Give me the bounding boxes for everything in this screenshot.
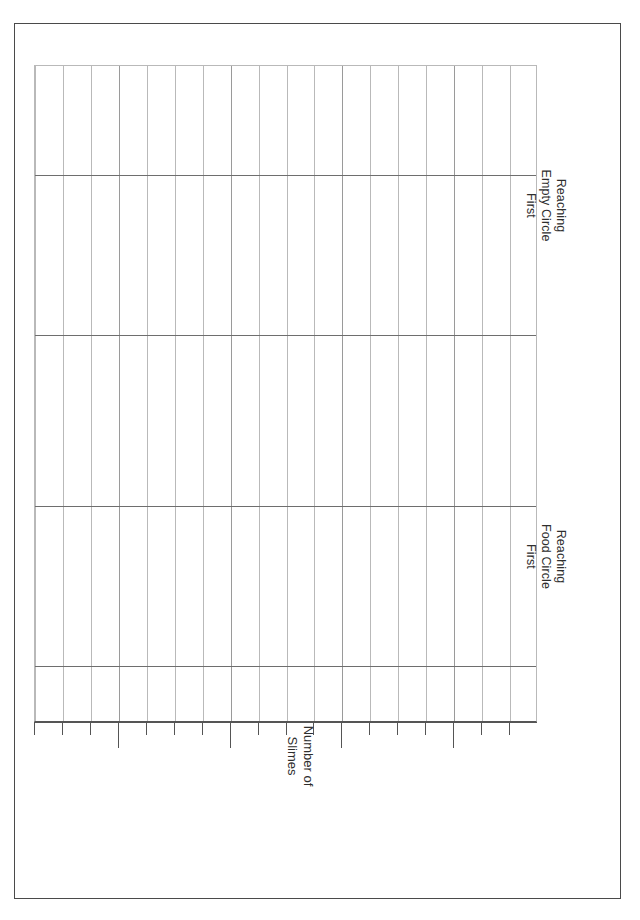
category-label-empty-circle: Reaching Empty Circle First: [523, 141, 568, 271]
axis-tick: [146, 722, 147, 735]
axis-tick: [34, 722, 35, 735]
gridline-v: [91, 66, 92, 721]
axis-tick: [90, 722, 91, 735]
axis-tick: [481, 722, 482, 735]
gridline-v: [510, 66, 511, 721]
chart-page: Reaching Empty Circle First Reaching Foo…: [0, 0, 640, 920]
value-axis-title: Number of Slimes: [284, 681, 316, 831]
gridline-v-major: [231, 66, 232, 721]
gridline-v: [175, 66, 176, 721]
gridline-v: [259, 66, 260, 721]
axis-tick-major: [230, 722, 231, 748]
gridline-v-major: [454, 66, 455, 721]
gridline-v: [147, 66, 148, 721]
chart-rotor: [34, 65, 537, 722]
gridline-v: [203, 66, 204, 721]
gridline-v: [287, 66, 288, 721]
axis-tick-major: [341, 722, 342, 748]
axis-tick: [397, 722, 398, 735]
gridline-v: [370, 66, 371, 721]
axis-tick-major: [118, 722, 119, 748]
axis-tick: [62, 722, 63, 735]
axis-tick: [174, 722, 175, 735]
gridline-v: [426, 66, 427, 721]
category-separator: [35, 335, 536, 336]
axis-tick: [425, 722, 426, 735]
gridline-v: [398, 66, 399, 721]
axis-tick-major: [453, 722, 454, 748]
gridline-v: [314, 66, 315, 721]
gridline-v-major: [119, 66, 120, 721]
gridline-v-major: [342, 66, 343, 721]
plot-area: [34, 65, 537, 722]
gridline-v: [63, 66, 64, 721]
axis-tick: [202, 722, 203, 735]
axis-tick: [258, 722, 259, 735]
axis-tick: [509, 722, 510, 735]
category-separator: [35, 175, 536, 176]
category-separator: [35, 666, 536, 667]
category-label-food-circle: Reaching Food Circle First: [523, 492, 568, 622]
axis-tick: [369, 722, 370, 735]
gridline-v: [35, 66, 36, 721]
gridline-v: [482, 66, 483, 721]
category-separator: [35, 506, 536, 507]
